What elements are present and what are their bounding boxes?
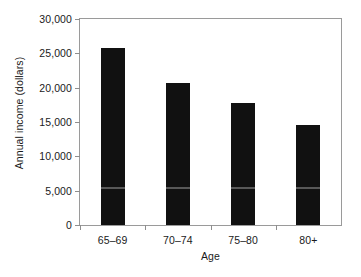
scan-artifact xyxy=(166,187,190,189)
y-axis-tick xyxy=(75,88,80,89)
y-axis-tick xyxy=(75,122,80,123)
y-axis-tick-label: 25,000 xyxy=(39,47,72,59)
x-axis-tick xyxy=(211,225,212,230)
bar xyxy=(296,125,320,225)
y-axis-tick-label: 10,000 xyxy=(39,150,72,162)
x-axis-tick xyxy=(145,225,146,230)
scan-artifact xyxy=(231,187,255,189)
x-axis-title: Age xyxy=(79,250,342,262)
y-axis-tick-label: 15,000 xyxy=(39,116,72,128)
x-axis-tick-label: 75–80 xyxy=(228,234,258,246)
x-axis-tick xyxy=(276,225,277,230)
y-axis-tick xyxy=(75,19,80,20)
y-axis-tick-label: 5,000 xyxy=(45,185,72,197)
bar-chart-figure: Annual income (dollars) 05,00010,00015,0… xyxy=(0,0,361,277)
x-axis-tick-label: 80+ xyxy=(299,234,317,246)
y-axis-tick xyxy=(75,156,80,157)
y-axis-tick-label: 20,000 xyxy=(39,82,72,94)
plot-area: 05,00010,00015,00020,00025,00030,00065–6… xyxy=(79,18,342,226)
scan-artifact xyxy=(296,187,320,189)
x-axis-tick-label: 70–74 xyxy=(163,234,193,246)
x-axis-tick-label: 65–69 xyxy=(98,234,128,246)
bar xyxy=(231,103,255,225)
y-axis-tick-label: 30,000 xyxy=(39,13,72,25)
y-axis-tick xyxy=(75,191,80,192)
y-axis-title: Annual income (dollars) xyxy=(10,0,28,226)
x-axis-tick xyxy=(80,225,81,230)
y-axis-tick-label: 0 xyxy=(66,219,72,231)
scan-artifact xyxy=(101,187,125,189)
bar xyxy=(166,83,190,225)
bar xyxy=(101,48,125,225)
y-axis-tick xyxy=(75,53,80,54)
